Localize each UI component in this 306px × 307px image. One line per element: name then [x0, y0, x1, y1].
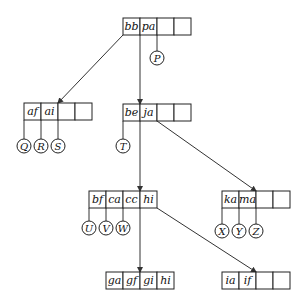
key-label: hi — [143, 193, 154, 206]
leaf-record-u: U — [82, 208, 96, 235]
empty-key-cell — [75, 103, 92, 120]
leaf-record-w: W — [116, 208, 130, 235]
key-label: pa — [142, 20, 156, 33]
tree-node-n_ga: gagfgihi — [106, 272, 174, 289]
b-tree-diagram: PQRSTUVWXYZ bbpaafaibejabfcacchikamagagf… — [0, 0, 306, 307]
record-label: S — [55, 141, 62, 152]
key-label: gi — [143, 274, 154, 287]
empty-key-cell — [256, 191, 273, 208]
key-label: hi — [160, 274, 171, 287]
record-label: R — [36, 141, 45, 152]
tree-node-n_af: afai — [24, 103, 92, 120]
key-label: ma — [239, 193, 256, 206]
key-label: bb — [124, 20, 138, 33]
empty-key-cell — [256, 272, 273, 289]
leaf-record-t: T — [116, 121, 130, 153]
tree-node-root: bbpa — [123, 18, 191, 35]
tree-node-n_bf: bfcacchi — [89, 191, 157, 208]
leaf-record-x: X — [215, 208, 229, 238]
key-label: ka — [224, 193, 237, 206]
record-label: Z — [252, 226, 261, 237]
tree-node-n_be: beja — [123, 104, 191, 121]
leaf-record-p: P — [150, 35, 164, 65]
key-label: be — [125, 106, 139, 119]
key-label: ca — [108, 193, 121, 206]
leaf-record-q: Q — [17, 120, 31, 153]
empty-key-cell — [174, 104, 191, 121]
record-label: P — [153, 53, 161, 64]
empty-key-cell — [174, 18, 191, 35]
child-pointer-arrow — [58, 35, 123, 103]
key-label: ia — [225, 274, 235, 287]
key-label: ga — [108, 274, 122, 287]
record-label: W — [118, 223, 129, 234]
tree-node-n_ia: iaif — [222, 272, 290, 289]
leaf-record-y: Y — [232, 208, 246, 238]
key-label: cc — [125, 193, 137, 206]
child-pointer-arrow — [157, 208, 256, 272]
empty-key-cell — [157, 104, 174, 121]
leaf-record-z: Z — [249, 208, 263, 238]
leaf-record-r: R — [34, 120, 48, 153]
leaf-record-s: S — [51, 120, 65, 153]
record-label: Q — [20, 141, 28, 152]
key-label: ai — [44, 105, 54, 118]
empty-key-cell — [273, 272, 290, 289]
key-label: bf — [92, 193, 105, 206]
record-label: U — [85, 223, 94, 234]
key-label: gf — [126, 274, 139, 287]
record-label: X — [217, 226, 226, 237]
empty-key-cell — [58, 103, 75, 120]
leaf-record-v: V — [99, 208, 113, 235]
child-pointer-arrow — [157, 121, 256, 191]
empty-key-cell — [273, 191, 290, 208]
tree-node-n_ka: kama — [222, 191, 290, 208]
empty-key-cell — [157, 18, 174, 35]
